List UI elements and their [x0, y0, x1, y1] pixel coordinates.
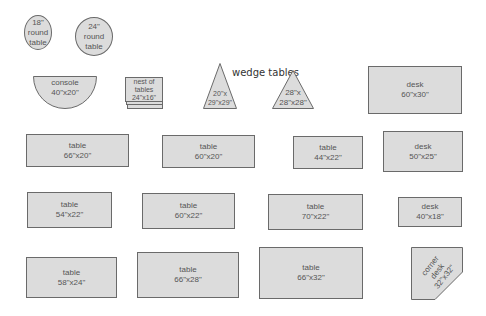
round-table-24: 24" round table [75, 17, 113, 56]
desk-50x25: desk 50"x25" [383, 131, 463, 172]
table-54x22: table 54"x22" [27, 192, 112, 228]
label-line: 29"x29" [208, 98, 232, 107]
label-line: table [307, 202, 324, 212]
nest-top-layer: nest of tables 24"x16" [125, 77, 163, 102]
label-line: 58"x24" [58, 278, 85, 288]
table-66x32: table 66"x32" [259, 247, 363, 299]
label-line: 24" [88, 22, 100, 32]
label-line: round [84, 32, 104, 42]
label-line: table [180, 201, 197, 211]
label-line: 40"x18" [416, 212, 443, 222]
table-66x20: table 66"x20" [26, 134, 129, 167]
label-line: 24"x16" [132, 94, 156, 102]
label-line: 28"x28" [279, 98, 306, 108]
label-line: 18" [32, 18, 44, 28]
label-line: desk [407, 80, 424, 90]
table-66x28: table 66"x28" [137, 252, 239, 298]
label-line: table [319, 143, 336, 153]
label-line: nest of [133, 78, 154, 86]
table-70x22: table 70"x22" [268, 194, 363, 230]
label-line: 70"x22" [302, 212, 329, 222]
label-line: 60"x20" [195, 152, 222, 162]
label-line: 60"x30" [401, 90, 428, 100]
label-line: round [28, 28, 48, 38]
label-line: 50"x25" [409, 152, 436, 162]
label-line: 60"x22" [175, 211, 202, 221]
label-line: table [179, 265, 196, 275]
label-line: table [200, 142, 217, 152]
label-line: table [63, 268, 80, 278]
label-line: 66"x28" [174, 275, 201, 285]
label-line: table [61, 200, 78, 210]
label-line: 66"x20" [64, 151, 91, 161]
round-table-18: 18" round table [24, 15, 52, 50]
label-line: 44"x22" [314, 153, 341, 163]
desk-40x18: desk 40"x18" [398, 197, 462, 227]
table-60x20: table 60"x20" [162, 135, 255, 168]
label-line: 40"x20" [51, 88, 78, 98]
table-58x24: table 58"x24" [26, 257, 117, 298]
label-line: 28"x [285, 88, 301, 98]
label-line: table [29, 38, 46, 48]
label-line: desk [422, 202, 439, 212]
label-line: console [51, 78, 79, 88]
label-line: 54"x22" [56, 210, 83, 220]
label-line: desk [415, 142, 432, 152]
table-60x22: table 60"x22" [142, 193, 235, 229]
label-line: table [85, 42, 102, 52]
label-line: table [69, 141, 86, 151]
label-line: table [302, 263, 319, 273]
desk-60x30: desk 60"x30" [368, 66, 462, 114]
table-44x22: table 44"x22" [293, 136, 363, 169]
label-line: 20"x [213, 89, 227, 98]
label-line: 66"x32" [297, 273, 324, 283]
label-line: tables [135, 86, 154, 94]
